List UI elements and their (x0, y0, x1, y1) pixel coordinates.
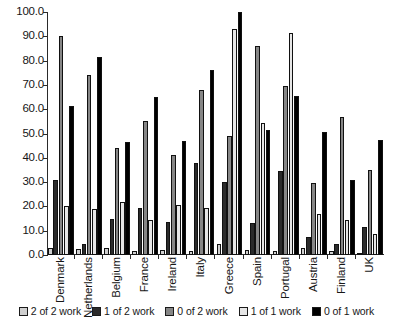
bar (368, 170, 373, 255)
bar (92, 209, 97, 255)
bar (311, 183, 316, 255)
bar (245, 250, 250, 255)
x-axis-tick-label: Portugal (280, 257, 292, 299)
chart-legend: 2 of 2 work1 of 2 work0 of 2 work1 of 1 … (0, 306, 393, 317)
y-axis-tick-label: 10.0 (0, 225, 44, 236)
bar (138, 208, 143, 255)
bar (160, 250, 165, 255)
x-axis-labels: DenmarkNetherlandsBelgiumFranceIrelandIt… (47, 257, 384, 303)
bar-group-greece (215, 12, 243, 255)
bar (306, 237, 311, 255)
bar (294, 96, 299, 255)
bar (373, 234, 378, 255)
bar (334, 244, 339, 255)
x-axis-tick-label: Austria (308, 257, 320, 292)
x-axis-label-slot: Portugal (272, 257, 300, 303)
legend-swatch-icon (239, 307, 248, 316)
legend-label: 0 of 1 work (324, 306, 374, 317)
legend-swatch-icon (312, 307, 321, 316)
legend-item-2: 0 of 2 work (165, 306, 227, 317)
legend-swatch-icon (92, 307, 101, 316)
bar (143, 121, 148, 255)
bar (232, 29, 237, 255)
x-axis-label-slot: Denmark (47, 257, 75, 303)
bar (255, 46, 260, 255)
x-axis-label-slot: Finland (328, 257, 356, 303)
legend-label: 1 of 2 work (104, 306, 154, 317)
bar (278, 171, 283, 255)
bar (378, 140, 383, 255)
bar (345, 220, 350, 255)
bar (357, 253, 362, 255)
bar (176, 205, 181, 255)
bar (194, 163, 199, 255)
bar (120, 202, 125, 255)
y-axis-tick-label: 50.0 (0, 128, 44, 139)
x-axis-tick-label: UK (364, 257, 376, 273)
legend-label: 2 of 2 work (31, 306, 81, 317)
x-axis-tick-label: Greece (224, 257, 236, 294)
bar (301, 248, 306, 255)
x-axis-label-slot: UK (356, 257, 384, 303)
bar (199, 90, 204, 255)
bar (69, 106, 74, 255)
bar (182, 141, 187, 255)
x-axis-label-slot: France (131, 257, 159, 303)
bar (238, 12, 243, 255)
bar (87, 75, 92, 255)
x-axis-label-slot: Spain (244, 257, 272, 303)
bar (273, 251, 278, 255)
y-axis-tick-mark (43, 255, 48, 256)
legend-swatch-icon (19, 307, 28, 316)
bar (204, 208, 209, 255)
bar (362, 227, 367, 255)
plot-area: 0.010.020.030.040.050.060.070.080.090.01… (47, 12, 384, 255)
bar (125, 142, 130, 255)
bar-group-spain (244, 12, 272, 255)
bar (210, 70, 215, 255)
bar-group-denmark (47, 12, 75, 255)
bar (217, 244, 222, 255)
y-axis-tick-label: 100.0 (0, 6, 44, 17)
x-axis-label-slot: Austria (300, 257, 328, 303)
bar-group-france (131, 12, 159, 255)
x-axis-label-slot: Belgium (103, 257, 131, 303)
bar (340, 117, 345, 256)
bar (322, 132, 327, 255)
bar (132, 251, 137, 255)
bar-group-portugal (272, 12, 300, 255)
bar (110, 219, 115, 255)
x-axis-tick-label: Finland (336, 257, 348, 294)
x-axis-label-slot: Ireland (159, 257, 187, 303)
bar-group-belgium (103, 12, 131, 255)
bar-group-uk (356, 12, 384, 255)
legend-label: 0 of 2 work (177, 306, 227, 317)
bar-group-austria (300, 12, 328, 255)
x-axis-tick-label: Ireland (168, 257, 180, 291)
x-axis-tick-label: France (140, 257, 152, 292)
bar (189, 251, 194, 255)
x-axis-tick-label: Belgium (111, 257, 123, 298)
bar (227, 136, 232, 255)
bar (154, 97, 159, 255)
bar (250, 223, 255, 255)
bar (53, 180, 58, 255)
legend-item-4: 0 of 1 work (312, 306, 374, 317)
bar (317, 214, 322, 255)
y-axis-tick-label: 90.0 (0, 30, 44, 41)
x-axis-label-slot: Greece (215, 257, 243, 303)
bar (104, 248, 109, 255)
y-axis-tick-label: 80.0 (0, 55, 44, 66)
y-axis-tick-label: 40.0 (0, 152, 44, 163)
bar (222, 182, 227, 255)
bar-groups (47, 12, 384, 255)
y-axis-tick-label: 60.0 (0, 103, 44, 114)
bar (289, 33, 294, 255)
y-axis-tick-label: 70.0 (0, 79, 44, 90)
bar (82, 244, 87, 255)
x-axis-label-slot: Netherlands (75, 257, 103, 303)
bar (148, 220, 153, 255)
legend-item-0: 2 of 2 work (19, 306, 81, 317)
bar-group-italy (187, 12, 215, 255)
bar (166, 222, 171, 255)
